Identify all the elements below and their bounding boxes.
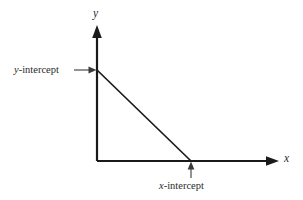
intercepts-diagram: y x y-intercept x-intercept	[0, 0, 303, 200]
diagram-canvas	[0, 0, 303, 200]
x-intercept-arrowhead	[188, 162, 195, 170]
y-axis-arrowhead	[92, 25, 102, 38]
x-intercept-label: x-intercept	[159, 181, 204, 192]
y-intercept-label: y-intercept	[14, 65, 59, 76]
y-intercept-label-suffix: -intercept	[19, 64, 59, 75]
x-axis-label: x	[284, 153, 289, 165]
y-axis-label: y	[93, 8, 98, 20]
x-axis-arrowhead	[266, 156, 279, 166]
plotted-line	[97, 70, 191, 161]
y-intercept-arrowhead	[89, 67, 97, 74]
x-intercept-label-suffix: -intercept	[164, 180, 204, 191]
